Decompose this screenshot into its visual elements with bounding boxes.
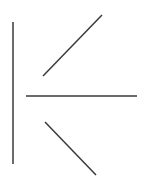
upper-diagonal-line: [43, 15, 102, 76]
lower-diagonal-line: [45, 122, 96, 175]
line-diagram: [0, 0, 151, 180]
diagram-svg: [0, 0, 151, 180]
